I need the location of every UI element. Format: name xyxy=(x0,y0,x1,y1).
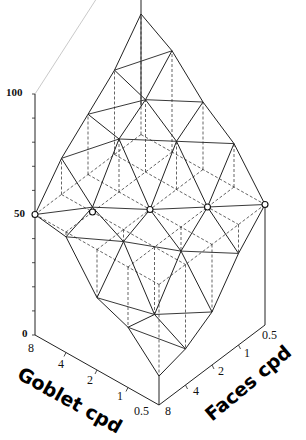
faces-tick-0.5: 0.5 xyxy=(262,328,277,342)
goblet-tick-1: 1 xyxy=(117,389,123,403)
surface-mesh xyxy=(35,14,265,376)
faces-tick-8: 8 xyxy=(165,404,171,418)
fifty-percent-markers xyxy=(32,202,268,218)
faces-tick-4: 4 xyxy=(193,384,199,398)
faces-tick-1: 1 xyxy=(244,346,250,360)
faces-tick-2: 2 xyxy=(218,364,224,378)
surface-plot: 100 50 0 8 4 2 1 0.5 0.5 1 2 4 8 Goblet … xyxy=(0,0,306,440)
z-tick-100: 100 xyxy=(6,86,23,98)
goblet-tick-0.5: 0.5 xyxy=(134,404,149,418)
z-tick-50: 50 xyxy=(14,207,26,219)
goblet-tick-4: 4 xyxy=(58,357,64,371)
goblet-axis-label: Goblet cpd xyxy=(14,362,126,437)
goblet-tick-8: 8 xyxy=(28,341,34,355)
goblet-tick-2: 2 xyxy=(87,373,93,387)
z-tick-0: 0 xyxy=(22,327,28,339)
axes xyxy=(32,0,265,405)
reference-plane-grid xyxy=(35,14,265,376)
